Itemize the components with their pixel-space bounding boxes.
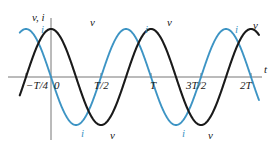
curve-label-v-3: v bbox=[167, 17, 172, 28]
tick-label-3: T bbox=[150, 80, 156, 91]
tick-label-2: T/2 bbox=[94, 80, 109, 91]
tick-label-0: −T/4 bbox=[26, 80, 48, 91]
tick-label-1: 0 bbox=[54, 80, 60, 91]
vertical-axis-label: v, i bbox=[32, 12, 45, 23]
curve-label-i-2: i bbox=[145, 24, 148, 35]
curve-label-i-6: i bbox=[81, 128, 84, 139]
horizontal-axis-label: t bbox=[264, 64, 267, 75]
curve-label-v-9: v bbox=[208, 130, 213, 141]
curve-label-i-4: i bbox=[235, 24, 238, 35]
curve-label-v-5: v bbox=[253, 20, 258, 31]
curve-label-i-0: i bbox=[41, 24, 44, 35]
curve-label-i-8: i bbox=[182, 128, 185, 139]
curve-label-v-1: v bbox=[90, 17, 95, 28]
tick-label-4: 3T/2 bbox=[186, 80, 206, 91]
tick-label-5: 2T bbox=[240, 80, 252, 91]
waveform-figure: v, it−T/40T/2T3T/22Tiviviviviv bbox=[0, 0, 274, 148]
curve-label-v-7: v bbox=[110, 130, 115, 141]
